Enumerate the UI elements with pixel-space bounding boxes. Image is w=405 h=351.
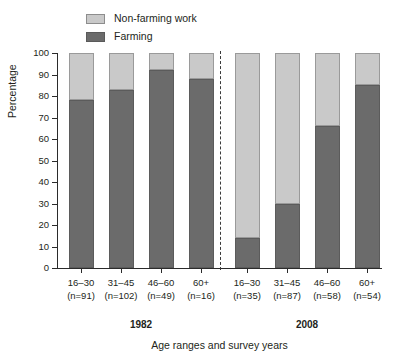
- bar-segment-farming: [189, 79, 214, 268]
- x-axis-tick: [201, 268, 202, 273]
- y-axis-tick-label: 40: [38, 176, 49, 187]
- legend-item-farming: Farming: [86, 29, 286, 44]
- y-axis-tick: 90: [52, 75, 57, 76]
- y-axis-tick: 80: [52, 96, 57, 97]
- y-axis-tick-label: 70: [38, 112, 49, 123]
- bar-segment-farming: [235, 238, 260, 268]
- bar-segment-non-farming-work: [69, 53, 94, 100]
- bar-segment-farming: [69, 100, 94, 268]
- plot-area: 0102030405060708090100 16–30(n=91)31–45(…: [57, 53, 382, 268]
- y-axis-tick-label: 90: [38, 69, 49, 80]
- y-axis-tick: 50: [52, 161, 57, 162]
- y-axis-title: Percentage: [6, 64, 18, 118]
- y-axis-tick-label: 20: [38, 219, 49, 230]
- x-axis-tick: [327, 268, 328, 273]
- bar-segment-farming: [355, 85, 380, 268]
- bar-segment-farming: [275, 204, 300, 269]
- legend-swatch-icon-farming: [86, 32, 105, 42]
- y-axis-tick-label: 0: [44, 262, 49, 273]
- bar: [355, 53, 380, 268]
- bar-segment-non-farming-work: [149, 53, 174, 70]
- y-axis-tick-label: 30: [38, 198, 49, 209]
- y-axis-tick-label: 10: [38, 241, 49, 252]
- bar-segment-farming: [109, 90, 134, 268]
- bar: [149, 53, 174, 268]
- bar-segment-non-farming-work: [275, 53, 300, 204]
- y-axis-tick-label: 50: [38, 155, 49, 166]
- y-axis-tick-label: 60: [38, 133, 49, 144]
- x-axis-title: Age ranges and survey years: [57, 339, 382, 351]
- x-axis-tick: [287, 268, 288, 273]
- bar-segment-non-farming-work: [189, 53, 214, 79]
- y-axis-tick: 20: [52, 225, 57, 226]
- bar: [275, 53, 300, 268]
- bar: [235, 53, 260, 268]
- bar-segment-non-farming-work: [109, 53, 134, 90]
- x-axis-tick: [161, 268, 162, 273]
- bar-segment-farming: [149, 70, 174, 268]
- bar-segment-farming: [315, 126, 340, 268]
- y-axis-tick-label: 80: [38, 90, 49, 101]
- x-axis-tick: [121, 268, 122, 273]
- bar: [109, 53, 134, 268]
- x-axis-tick: [81, 268, 82, 273]
- category-range: 60+: [338, 277, 396, 290]
- legend-label-farming: Farming: [114, 31, 153, 42]
- bar: [315, 53, 340, 268]
- y-axis-tick: 40: [52, 182, 57, 183]
- bar: [189, 53, 214, 268]
- y-axis-tick: 70: [52, 118, 57, 119]
- y-axis-tick: 10: [52, 247, 57, 248]
- bar-segment-non-farming-work: [235, 53, 260, 238]
- y-axis-tick-label: 100: [33, 47, 49, 58]
- x-axis-category-label: 60+(n=54): [338, 277, 396, 302]
- x-axis-tick: [367, 268, 368, 273]
- chart-legend: Non-farming work Farming: [86, 11, 286, 47]
- bar-segment-non-farming-work: [315, 53, 340, 126]
- x-axis-tick: [247, 268, 248, 273]
- y-axis-tick: 100: [52, 53, 57, 54]
- group-label-2008: 2008: [267, 319, 347, 330]
- legend-label-non-farming-work: Non-farming work: [114, 13, 197, 24]
- y-axis-tick: 0: [52, 268, 57, 269]
- year-group-divider: [220, 51, 221, 270]
- group-label-1982: 1982: [101, 319, 181, 330]
- legend-swatch-icon-non-farming-work: [86, 14, 105, 24]
- bar: [69, 53, 94, 268]
- y-axis-line: [57, 53, 58, 268]
- bar-segment-non-farming-work: [355, 53, 380, 85]
- category-count: (n=54): [338, 290, 396, 303]
- legend-item-non-farming-work: Non-farming work: [86, 11, 286, 26]
- y-axis-tick: 60: [52, 139, 57, 140]
- y-axis-tick: 30: [52, 204, 57, 205]
